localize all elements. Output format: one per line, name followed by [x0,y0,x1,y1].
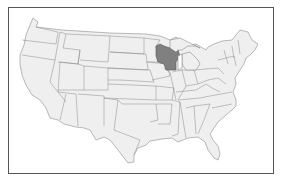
us-map [0,0,285,183]
us-outline [20,18,258,163]
lake-michigan [178,54,182,70]
